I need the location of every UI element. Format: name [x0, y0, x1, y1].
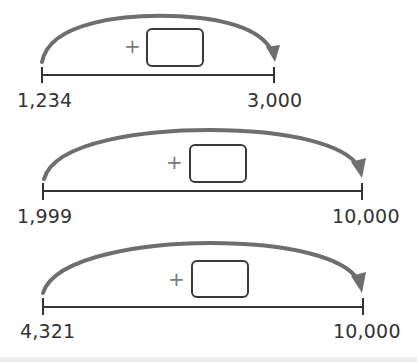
bottom-edge	[0, 357, 417, 362]
number-line-3	[43, 298, 363, 315]
start-label-3: 4,321	[20, 322, 75, 341]
number-line-2	[43, 183, 362, 200]
start-label-1: 1,234	[17, 91, 72, 110]
number-line-1	[42, 67, 274, 83]
plus-sign-1: +	[124, 36, 141, 56]
answer-box-3[interactable]	[191, 260, 249, 298]
number-line-worksheet: + 1,234 3,000 + 1,999 10,000 + 4,321 10,…	[0, 0, 417, 362]
start-label-2: 1,999	[17, 207, 72, 226]
arrowhead-icon	[266, 45, 280, 62]
answer-box-1[interactable]	[146, 28, 204, 67]
end-label-1: 3,000	[247, 91, 302, 110]
plus-sign-2: +	[166, 152, 183, 172]
plus-sign-3: +	[168, 269, 185, 289]
end-label-2: 10,000	[332, 207, 400, 226]
end-label-3: 10,000	[333, 322, 401, 341]
answer-box-2[interactable]	[189, 144, 247, 183]
